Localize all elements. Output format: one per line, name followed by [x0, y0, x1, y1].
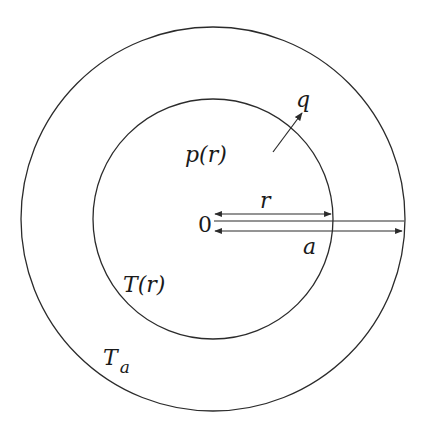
radius-r-label: r	[260, 188, 272, 213]
concentric-circles-diagram: 0 r a q p(r) T(r) Ta	[0, 0, 424, 433]
flux-q-arrow	[273, 113, 302, 152]
origin-label: 0	[198, 212, 212, 237]
outer-circle	[21, 27, 405, 411]
inner-temperature-label: T(r)	[123, 272, 165, 297]
outer-temperature-label: Ta	[103, 345, 130, 377]
interior-pressure-label: p(r)	[185, 142, 227, 167]
outer-temperature-main: T	[103, 345, 120, 370]
outer-temperature-subscript: a	[120, 357, 130, 377]
radius-a-label: a	[303, 234, 316, 259]
inner-circle	[93, 99, 333, 339]
flux-q-label: q	[296, 87, 310, 112]
